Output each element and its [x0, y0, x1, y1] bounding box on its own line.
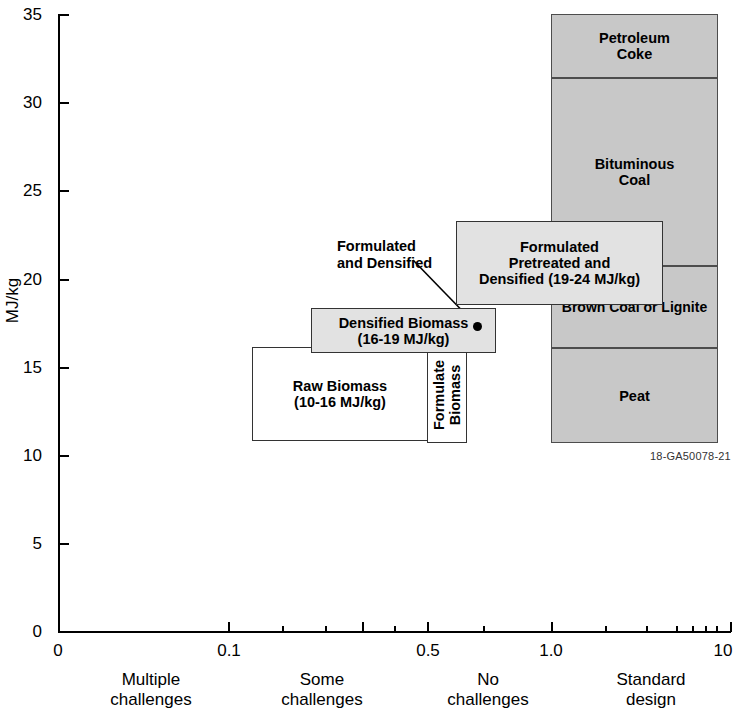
block-formulated-pretreated-densified: Formulated Pretreated and Densified (19-… — [456, 221, 663, 305]
block-formulate-biomass: Formulate Biomass — [427, 347, 467, 443]
block-raw-biomass: Raw Biomass (10-16 MJ/kg) — [252, 347, 428, 441]
figure-id-label: 18-GA50078-21 — [650, 450, 731, 462]
block-formulate-biomass-label: Formulate Biomass — [431, 360, 463, 430]
annotation-pointer-dot — [473, 322, 482, 331]
annotation-formulated-and-densified: Formulated and Densified — [337, 238, 472, 272]
block-densified-biomass: Densified Biomass (16-19 MJ/kg) — [311, 308, 496, 353]
